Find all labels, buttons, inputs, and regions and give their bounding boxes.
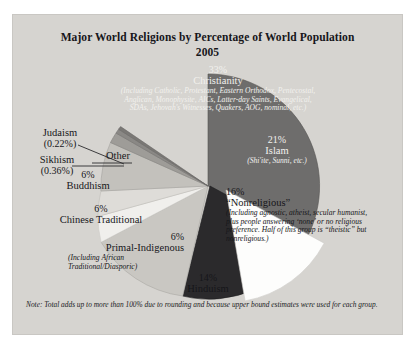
islam-sub: (Shi'ite, Sunni, etc.) [238, 157, 316, 166]
slice-label-sikhism: Sikhism (0.36%) [17, 154, 97, 176]
slice-label-christianity: 33% Christianity (Including Catholic, Pr… [120, 64, 316, 113]
sikhism-name: Sikhism [17, 154, 97, 165]
figure-root: Major World Religions by Percentage of W… [0, 0, 415, 349]
nonreligious-sub: (Including agnostic, atheist, secular hu… [226, 209, 376, 243]
nonreligious-pct: 16% [226, 186, 376, 197]
slice-label-chinese-traditional: 6% Chinese Traditional [46, 203, 156, 225]
buddhism-name: Buddhism [46, 180, 130, 191]
other-name: Other [92, 150, 144, 161]
christianity-pct: 33% [120, 64, 316, 75]
primal-pct: 6% [68, 231, 184, 242]
islam-pct: 21% [238, 134, 316, 145]
hinduism-name: Hinduism [173, 283, 243, 294]
judaism-pct: (0.22%) [20, 138, 100, 149]
primal-sub: (Including African Traditional/Diasporic… [68, 254, 184, 271]
slice-label-judaism: Judaism (0.22%) [20, 127, 100, 149]
slice-label-islam: 21% Islam (Shi'ite, Sunni, etc.) [238, 134, 316, 166]
chinese-pct: 6% [46, 203, 156, 214]
slice-label-nonreligious: 16% “Nonreligious” (Including agnostic, … [226, 186, 376, 243]
christianity-sub: (Including Catholic, Protestant, Eastern… [120, 87, 316, 113]
islam-name: Islam [238, 145, 316, 156]
christianity-name: Christianity [120, 75, 316, 86]
sikhism-pct: (0.36%) [17, 165, 97, 176]
judaism-name: Judaism [20, 127, 100, 138]
chart-plate: Major World Religions by Percentage of W… [12, 14, 403, 335]
slice-label-other: Other [92, 150, 144, 161]
slice-label-primal-indigenous: 6% Primal-Indigenous (Including African … [68, 231, 184, 271]
slice-label-hinduism: 14% Hinduism [173, 272, 243, 294]
nonreligious-name: “Nonreligious” [226, 197, 376, 208]
primal-name: Primal-Indigenous [68, 242, 184, 253]
chinese-name: Chinese Traditional [46, 214, 156, 225]
hinduism-pct: 14% [173, 272, 243, 283]
chart-note: Note: Total adds up to more than 100% du… [26, 300, 392, 309]
